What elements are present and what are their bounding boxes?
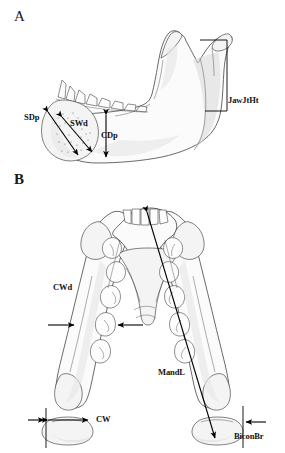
- label-cdp: CDp: [101, 131, 118, 140]
- label-mandl: MandL: [158, 368, 185, 377]
- label-sdp: SDp: [24, 113, 39, 122]
- panel-b-illustration: [0, 180, 285, 453]
- label-jawjtht: JawJtHt: [228, 96, 258, 105]
- mandible-lateral-outline: [41, 31, 232, 163]
- panel-a-illustration: [0, 0, 285, 180]
- symphysis-cross-section: [41, 100, 98, 161]
- label-cwd: CWd: [53, 283, 72, 292]
- label-biconbr: BiconBr: [234, 432, 264, 441]
- label-swd: SWd: [70, 119, 88, 128]
- anatomical-figure: A: [0, 0, 285, 453]
- mandible-superior-outline: [28, 208, 266, 448]
- label-cw: CW: [96, 415, 110, 424]
- incisor-block: [123, 209, 168, 225]
- left-condyle: [42, 417, 93, 445]
